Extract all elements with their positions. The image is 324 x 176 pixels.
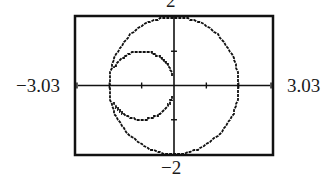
curve-inner-circle-partial-	[114, 52, 172, 76]
curve-inner-circle-partial-	[114, 96, 172, 120]
axes	[77, 17, 271, 154]
graph-window	[0, 0, 324, 176]
